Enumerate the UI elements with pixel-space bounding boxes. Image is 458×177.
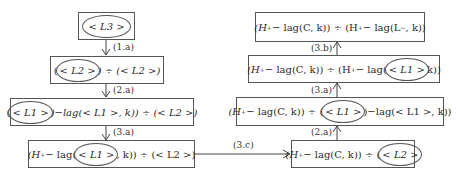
right-box-final: (H+ − lag(C, k)) ÷ (H+ − lag(L− , k))	[255, 12, 425, 42]
circled-term: < L1 >	[11, 107, 51, 118]
edge-label-right-3a: (3.a)	[311, 85, 332, 95]
right-box-hplus-lag-c-l2: (H+ − lag(C, k)) ÷ ( < L2 >	[291, 140, 415, 168]
circled-term: < L2 >	[380, 149, 420, 160]
edge-label-3b: (3.b)	[311, 43, 332, 53]
left-box-l3: < L3 >	[78, 12, 135, 40]
circle-highlight	[385, 58, 429, 81]
circled-term: < L1 >	[387, 64, 427, 75]
circle-highlight	[74, 143, 118, 166]
right-box-l1-minus-lag: (H+ − lag(C, k)) ÷ ( < L1 > )−lag(< L1 >…	[236, 97, 444, 126]
edge-label-2a: (2.a)	[113, 85, 134, 95]
edge-label-right-2a: (2.a)	[311, 127, 332, 137]
circle-highlight	[378, 143, 422, 166]
circled-term: < L2 >	[58, 65, 98, 76]
circle-highlight	[321, 100, 365, 123]
circle-highlight	[82, 15, 130, 38]
circled-term: < L3 >	[84, 19, 128, 34]
edge-label-3c: (3.c)	[233, 140, 254, 150]
left-box-l1-minus-lag: ( < L1 > )−lag(< L1 >, k)) ÷ (< L2 >)	[10, 98, 194, 126]
right-box-hplus-lag-l1: (H+ − lag(C, k)) ÷ (H+ − lag( < L1 > k))	[248, 55, 440, 83]
circled-term: < L1 >	[323, 106, 363, 117]
edge-label-1a: (1.a)	[113, 42, 134, 52]
circle-highlight	[56, 59, 100, 82]
circled-term: < L1 >	[76, 149, 116, 160]
left-box-l2-div-l2: ( < L2 > ) ÷ (< L2 >)	[50, 56, 164, 84]
circle-highlight	[8, 101, 53, 124]
edge-label-3a: (3.a)	[113, 127, 134, 137]
derivation-diagram: < L3 > (1.a) ( < L2 > ) ÷ (< L2 >) (2.a)…	[0, 0, 458, 177]
left-box-hplus-lag-l1: (H+ − lag( < L1 > , k)) ÷ (< L2 >)	[28, 140, 195, 168]
